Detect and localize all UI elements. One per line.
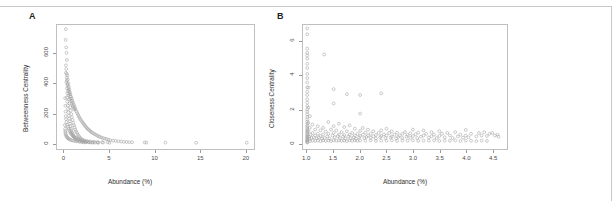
x-tick-label: 4.0 — [462, 155, 470, 161]
y-tick-mark — [53, 53, 56, 54]
y-tick-mark — [299, 41, 302, 42]
panel-a-plot-area — [56, 24, 255, 150]
x-tick-mark — [413, 150, 414, 153]
y-tick-label: 0 — [43, 137, 49, 149]
y-tick-mark — [299, 75, 302, 76]
x-tick-mark — [63, 150, 64, 153]
x-tick-label: 2.0 — [355, 155, 363, 161]
x-tick-mark — [333, 150, 334, 153]
y-tick-label: 2 — [289, 103, 295, 115]
x-tick-label: 15 — [197, 155, 204, 161]
y-tick-label: 6 — [289, 34, 295, 46]
x-tick-label: 1.5 — [329, 155, 337, 161]
y-tick-mark — [299, 110, 302, 111]
x-tick-mark — [386, 150, 387, 153]
panel-b-x-axis-title: Abundance (%) — [383, 178, 427, 185]
panel-a-x-axis-title: Abundance (%) — [108, 178, 152, 185]
x-tick-label: 10 — [151, 155, 158, 161]
x-tick-mark — [109, 150, 110, 153]
x-tick-label: 0 — [62, 155, 65, 161]
panel-a-y-axis-title: Betweenness Centrality — [22, 65, 29, 132]
y-tick-mark — [53, 114, 56, 115]
y-tick-label: 200 — [43, 107, 49, 119]
x-tick-label: 3.0 — [409, 155, 417, 161]
x-tick-mark — [493, 150, 494, 153]
panel-a: A 051015200200400600 Abundance (%) Betwe… — [0, 0, 300, 201]
y-tick-label: 0 — [289, 137, 295, 149]
x-tick-mark — [200, 150, 201, 153]
panel-b-plot-area — [302, 24, 508, 150]
x-tick-mark — [440, 150, 441, 153]
x-tick-label: 2.5 — [382, 155, 390, 161]
x-tick-label: 1.0 — [302, 155, 310, 161]
y-tick-mark — [299, 144, 302, 145]
panel-b-scatter — [303, 25, 507, 149]
panel-a-label: A — [29, 11, 36, 21]
x-tick-mark — [360, 150, 361, 153]
y-tick-label: 600 — [43, 46, 49, 58]
x-tick-mark — [306, 150, 307, 153]
y-tick-mark — [53, 83, 56, 84]
x-tick-label: 4.5 — [489, 155, 497, 161]
y-tick-label: 4 — [289, 68, 295, 80]
y-tick-mark — [53, 144, 56, 145]
x-tick-mark — [466, 150, 467, 153]
panel-a-scatter — [57, 25, 254, 149]
x-tick-mark — [246, 150, 247, 153]
panel-b-y-axis-title: Closeness Centrality — [268, 69, 275, 128]
x-tick-label: 5 — [107, 155, 110, 161]
x-tick-label: 20 — [243, 155, 250, 161]
y-tick-label: 400 — [43, 76, 49, 88]
x-tick-label: 3.5 — [436, 155, 444, 161]
panel-b-label: B — [277, 11, 284, 21]
x-tick-mark — [155, 150, 156, 153]
figure-container: A 051015200200400600 Abundance (%) Betwe… — [0, 0, 612, 201]
panel-b: B 1.01.52.02.53.03.54.04.50246 Abundance… — [300, 0, 612, 201]
